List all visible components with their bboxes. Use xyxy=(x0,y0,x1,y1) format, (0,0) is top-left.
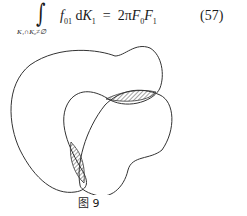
integral-domain: K₁∩K₀≠∅ xyxy=(17,28,46,36)
integral-sign: ∫ xyxy=(36,0,45,28)
rhs-coefficient: 2π xyxy=(118,8,132,23)
f1-subscript: 1 xyxy=(153,17,157,26)
f1-symbol: F xyxy=(144,8,153,23)
figure-caption: 图 9 xyxy=(78,194,100,210)
k-subscript: 1 xyxy=(92,17,96,26)
equation-57: ∫ K₁∩K₀≠∅ f01 dK1 = 2πF0F1 (57) xyxy=(0,0,247,40)
f-subscript: 01 xyxy=(64,17,72,26)
equation-number: (57) xyxy=(200,8,223,24)
k-symbol: K xyxy=(82,8,91,23)
curve-k0 xyxy=(11,47,162,193)
hatched-region-lower xyxy=(70,142,84,183)
figure-9-diagram xyxy=(0,40,247,195)
equals-sign: = xyxy=(103,8,111,23)
curve-k1 xyxy=(79,90,172,195)
equation-body: f01 dK1 = 2πF0F1 xyxy=(60,8,157,26)
f0-symbol: F xyxy=(132,8,141,23)
